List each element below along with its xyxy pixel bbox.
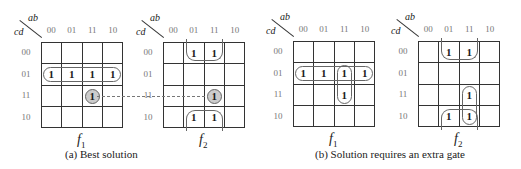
kmap-cell xyxy=(184,85,205,107)
kmap-cell: 1 xyxy=(82,64,103,86)
kmap-cell xyxy=(459,63,480,85)
kmap-cell xyxy=(418,63,439,85)
kmap-cell xyxy=(334,41,355,63)
kmap-cell: 1 xyxy=(334,63,355,85)
kmap-cell xyxy=(439,63,460,85)
kmap-cell xyxy=(163,42,184,64)
kmap-cell xyxy=(204,64,225,86)
kmap-cell xyxy=(62,107,83,129)
kmap-cell xyxy=(41,107,62,129)
column-label: 10 xyxy=(225,25,246,35)
row-label: 01 xyxy=(139,69,157,79)
row-label: 11 xyxy=(269,89,287,99)
kmap-cell xyxy=(480,63,501,85)
column-label: 10 xyxy=(103,25,124,35)
column-label: 01 xyxy=(439,24,460,34)
column-label: 00 xyxy=(293,24,314,34)
row-label: 01 xyxy=(17,69,35,79)
row-label: 10 xyxy=(139,112,157,122)
column-label: 11 xyxy=(334,24,355,34)
kmap-cell xyxy=(418,41,439,63)
kmap-cell: 1 xyxy=(41,64,62,86)
row-label: 11 xyxy=(139,90,157,100)
karnaugh-map-a-f1: abcd000111100001111011111f1 xyxy=(41,42,123,128)
kmap-cell: 1 xyxy=(184,42,205,64)
kmap-cell: 1 xyxy=(62,64,83,86)
row-label: 10 xyxy=(17,112,35,122)
column-variable-label: ab xyxy=(28,12,38,23)
kmap-cell xyxy=(418,106,439,128)
row-label: 11 xyxy=(17,90,35,100)
caption-b: (b) Solution requires an extra gate xyxy=(315,148,465,160)
function-label: f1 xyxy=(329,131,337,149)
column-variable-label: ab xyxy=(405,11,415,22)
row-label: 00 xyxy=(17,47,35,57)
kmap-cell xyxy=(41,42,62,64)
kmap-cell: 1 xyxy=(459,41,480,63)
kmap-cell xyxy=(480,84,501,106)
karnaugh-map-a-f2: abcd000111100001111011111f2 xyxy=(163,42,245,128)
kmap-cell xyxy=(225,64,246,86)
row-label: 10 xyxy=(394,111,412,121)
kmap-cell: 1 xyxy=(334,84,355,106)
column-label: 10 xyxy=(355,24,376,34)
kmap-cell: 1 xyxy=(103,64,124,86)
kmap-cell: 1 xyxy=(355,63,376,85)
kmap-cell: 1 xyxy=(184,107,205,129)
kmap-cell xyxy=(439,84,460,106)
kmap-cell xyxy=(41,85,62,107)
column-label: 11 xyxy=(459,24,480,34)
kmap-cell xyxy=(225,85,246,107)
kmap-cell xyxy=(184,64,205,86)
row-label: 00 xyxy=(394,46,412,56)
caption-a: (a) Best solution xyxy=(65,148,138,160)
row-label: 01 xyxy=(394,68,412,78)
row-label: 01 xyxy=(269,68,287,78)
kmap-cell xyxy=(62,85,83,107)
row-variable-label: cd xyxy=(391,25,400,36)
kmap-cell: 1 xyxy=(204,42,225,64)
kmap-cell: 1 xyxy=(82,85,103,107)
row-variable-label: cd xyxy=(266,25,275,36)
kmap-cell: 1 xyxy=(314,63,335,85)
function-subscript: 2 xyxy=(203,140,208,150)
row-label: 00 xyxy=(269,46,287,56)
karnaugh-map-b-f2: abcd000111100001111011111f2 xyxy=(418,41,500,127)
column-label: 00 xyxy=(418,24,439,34)
kmap-cell xyxy=(103,107,124,129)
kmap-cell xyxy=(314,41,335,63)
column-variable-label: ab xyxy=(150,12,160,23)
kmap-cell: 1 xyxy=(293,63,314,85)
kmap-cell: 1 xyxy=(459,84,480,106)
kmap-cell xyxy=(355,41,376,63)
kmap-cell xyxy=(355,84,376,106)
kmap-cell xyxy=(225,42,246,64)
kmap-cell: 1 xyxy=(459,106,480,128)
kmap-cell xyxy=(225,107,246,129)
column-variable-label: ab xyxy=(280,11,290,22)
kmap-cell xyxy=(293,41,314,63)
column-label: 01 xyxy=(314,24,335,34)
kmap-cell xyxy=(355,106,376,128)
kmap-cell xyxy=(62,42,83,64)
column-label: 01 xyxy=(62,25,83,35)
kmap-cell xyxy=(314,106,335,128)
kmap-cell xyxy=(82,107,103,129)
kmap-cell xyxy=(293,84,314,106)
kmap-cell xyxy=(82,42,103,64)
kmap-cell xyxy=(103,85,124,107)
row-label: 00 xyxy=(139,47,157,57)
kmap-cell: 1 xyxy=(204,107,225,129)
kmap-cell xyxy=(418,84,439,106)
kmap-cell xyxy=(293,106,314,128)
kmap-cell xyxy=(480,106,501,128)
kmap-cell xyxy=(334,106,355,128)
function-label: f2 xyxy=(199,132,207,150)
column-label: 11 xyxy=(82,25,103,35)
kmap-cell xyxy=(314,84,335,106)
column-label: 11 xyxy=(204,25,225,35)
kmap-cell xyxy=(163,107,184,129)
kmap-cell xyxy=(480,41,501,63)
kmap-cell xyxy=(103,42,124,64)
column-label: 00 xyxy=(41,25,62,35)
